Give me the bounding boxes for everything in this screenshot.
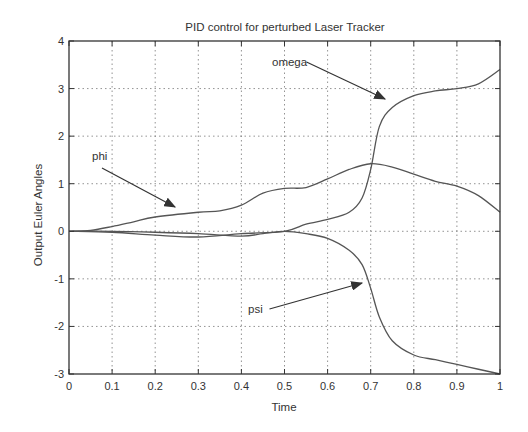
- y-tick-label: 3: [58, 83, 64, 95]
- x-tick-label: 0.4: [234, 380, 249, 392]
- y-axis-label: Output Euler Angles: [32, 164, 44, 267]
- x-tick-label: 0.3: [191, 380, 206, 392]
- x-tick-label: 0.7: [363, 380, 378, 392]
- x-tick-label: 0.6: [320, 380, 335, 392]
- y-tick-label: 2: [58, 130, 64, 142]
- psi-label: psi: [248, 303, 263, 315]
- y-tick-label: -3: [54, 368, 64, 380]
- psi-arrow: [270, 283, 363, 309]
- phi-arrow: [102, 168, 175, 207]
- y-tick-label: 0: [58, 225, 64, 237]
- y-tick-label: 4: [58, 35, 64, 47]
- x-tick-label: 0: [66, 380, 72, 392]
- x-axis-label: Time: [271, 401, 296, 413]
- annotations: omegaphipsi: [92, 56, 385, 315]
- omega-arrow: [307, 62, 386, 99]
- series-omega: [69, 70, 500, 237]
- chart-title: PID control for perturbed Laser Tracker: [185, 21, 385, 33]
- phi-label: phi: [92, 150, 107, 162]
- axis-ticks: 00.10.20.30.40.50.60.70.80.91-3-2-101234: [54, 35, 503, 392]
- y-tick-label: -2: [54, 320, 64, 332]
- x-tick-label: 0.5: [277, 380, 292, 392]
- euler-angles-chart: 00.10.20.30.40.50.60.70.80.91-3-2-101234…: [0, 0, 528, 432]
- x-tick-label: 0.9: [449, 380, 464, 392]
- x-tick-label: 0.1: [104, 380, 119, 392]
- y-tick-label: -1: [54, 273, 64, 285]
- x-tick-label: 0.2: [148, 380, 163, 392]
- x-tick-label: 1: [497, 380, 503, 392]
- omega-label: omega: [272, 56, 308, 68]
- y-tick-label: 1: [58, 178, 64, 190]
- x-tick-label: 0.8: [406, 380, 421, 392]
